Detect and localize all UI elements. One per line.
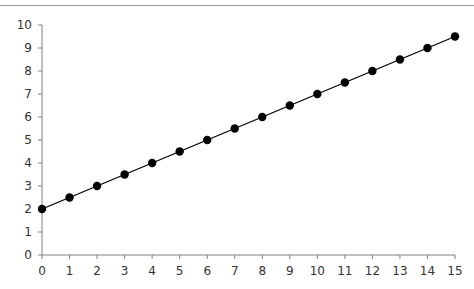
y-tick-label: 1 xyxy=(24,225,32,239)
data-point-marker xyxy=(203,136,211,144)
data-point-marker xyxy=(175,147,183,155)
data-point-marker xyxy=(231,124,239,132)
x-tick-label: 7 xyxy=(231,264,239,278)
data-point-marker xyxy=(368,67,376,75)
x-tick-label: 12 xyxy=(365,264,380,278)
data-point-marker xyxy=(313,90,321,98)
series-line xyxy=(42,37,455,210)
x-tick-label: 2 xyxy=(93,264,101,278)
y-tick-label: 4 xyxy=(24,156,32,170)
x-tick-label: 3 xyxy=(121,264,129,278)
x-tick-label: 5 xyxy=(176,264,184,278)
y-tick-label: 10 xyxy=(17,18,32,32)
data-point-marker xyxy=(423,44,431,52)
line-chart: 0123456789100123456789101112131415 xyxy=(0,0,474,289)
y-tick-label: 3 xyxy=(24,179,32,193)
data-point-marker xyxy=(258,113,266,121)
data-point-marker xyxy=(341,78,349,86)
x-tick-label: 9 xyxy=(286,264,294,278)
data-point-marker xyxy=(286,101,294,109)
y-tick-label: 6 xyxy=(24,110,32,124)
x-tick-label: 15 xyxy=(447,264,462,278)
data-point-marker xyxy=(93,182,101,190)
y-tick-label: 2 xyxy=(24,202,32,216)
data-point-marker xyxy=(396,55,404,63)
x-tick-label: 11 xyxy=(337,264,352,278)
x-tick-label: 14 xyxy=(420,264,435,278)
data-point-marker xyxy=(120,170,128,178)
data-point-marker xyxy=(65,193,73,201)
x-tick-label: 13 xyxy=(392,264,407,278)
y-tick-label: 5 xyxy=(24,133,32,147)
data-point-marker xyxy=(148,159,156,167)
y-tick-label: 0 xyxy=(24,248,32,262)
data-point-marker xyxy=(38,205,46,213)
data-point-marker xyxy=(451,32,459,40)
x-tick-label: 1 xyxy=(66,264,74,278)
y-tick-label: 8 xyxy=(24,64,32,78)
x-tick-label: 8 xyxy=(258,264,266,278)
y-tick-label: 9 xyxy=(24,41,32,55)
x-tick-label: 10 xyxy=(310,264,325,278)
y-tick-label: 7 xyxy=(24,87,32,101)
x-tick-label: 0 xyxy=(38,264,46,278)
x-tick-label: 6 xyxy=(203,264,211,278)
x-tick-label: 4 xyxy=(148,264,156,278)
